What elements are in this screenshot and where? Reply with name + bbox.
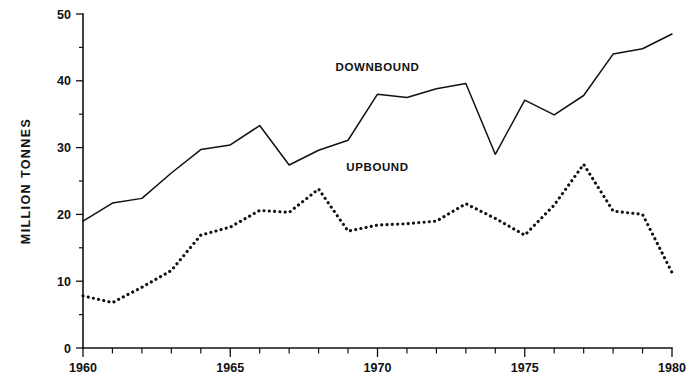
y-tick-label: 20 xyxy=(57,208,71,222)
y-axis-title: MILLION TONNES xyxy=(19,118,33,244)
x-tick-label: 1980 xyxy=(658,361,686,375)
x-tick-label: 1965 xyxy=(216,361,244,375)
x-tick-label: 1960 xyxy=(69,361,97,375)
chart-page: 0102030405019601965197019751980 DOWNBOUN… xyxy=(0,0,700,381)
series-label-downbound: DOWNBOUND xyxy=(336,61,420,73)
y-tick-label: 10 xyxy=(57,275,71,289)
chart-axis-title: MILLION TONNES xyxy=(19,118,33,244)
series-line-upbound xyxy=(83,164,672,302)
series-label-upbound: UPBOUND xyxy=(346,161,408,173)
y-tick-label: 40 xyxy=(57,74,71,88)
chart-series-labels: DOWNBOUNDUPBOUND xyxy=(336,61,420,173)
x-tick-label: 1975 xyxy=(511,361,539,375)
y-tick-label: 30 xyxy=(57,141,71,155)
x-tick-label: 1970 xyxy=(364,361,392,375)
y-tick-label: 0 xyxy=(64,342,71,356)
line-chart: 0102030405019601965197019751980 DOWNBOUN… xyxy=(0,0,700,381)
y-tick-label: 50 xyxy=(57,8,71,22)
